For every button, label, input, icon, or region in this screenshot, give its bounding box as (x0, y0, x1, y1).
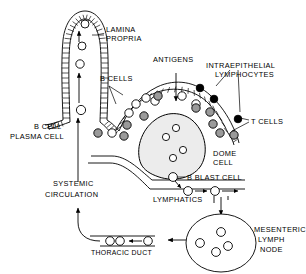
thoracic-duct-cell-1 (106, 237, 115, 246)
lymphocyte-t-1 (154, 92, 162, 100)
lymph-node-cell-2 (224, 242, 233, 251)
label-dome-cell-line1: DOME (213, 149, 237, 158)
lymphocyte-t-5 (120, 132, 128, 140)
label-mesenteric-line3: NODE (260, 245, 283, 254)
thoracic-duct-cell-3 (144, 237, 153, 246)
diagram-canvas: LAMINA PROPRIA B CELLS ANTIGENS INTRAEPI… (0, 0, 306, 274)
label-antigens: ANTIGENS (153, 55, 194, 64)
label-intraepithelial-line2: LYMPHOCYTES (215, 70, 274, 79)
b-blast-cell-circle (169, 173, 178, 182)
label-lamina-propria-line1: LAMINA (106, 25, 136, 34)
lymphocyte-b-5 (178, 92, 186, 100)
lymphocyte-b-2 (132, 100, 140, 108)
lymphocyte-b-4 (125, 109, 133, 117)
label-systemic-line2: CIRCULATION (45, 190, 98, 199)
label-intraepithelial-line1: INTRAEPITHELIAL (206, 61, 275, 70)
lymph-node-cell-4 (196, 239, 205, 248)
dome-cell-inclusion-4 (179, 146, 186, 153)
lymph-transit-cell-2 (211, 187, 220, 196)
label-mesenteric-line1: MESENTERIC (254, 225, 306, 234)
lymphocyte-b-6 (108, 129, 116, 137)
label-b-cells: B CELLS (100, 74, 133, 83)
mesenteric-lymph-node (168, 214, 256, 272)
lymphocyte-t-2 (140, 112, 148, 120)
lymphocyte-t-4 (94, 129, 102, 137)
lymphocyte-t-3 (123, 121, 131, 129)
lymphocyte-t-8 (209, 120, 217, 128)
intraepithelial-lymphocyte-3 (234, 115, 242, 123)
label-dome-cell-line2: CELL (213, 158, 233, 167)
label-thoracic-duct: THORACIC DUCT (91, 249, 152, 256)
lymphocyte-t-9 (216, 129, 224, 137)
label-lymphatics: LYMPHATICS (153, 195, 203, 204)
lymphocyte-b-1 (142, 94, 150, 102)
b-blast-entry-arrow (175, 181, 181, 188)
thoracic-duct (78, 208, 155, 246)
lymphocyte-t-7 (206, 108, 214, 116)
label-mesenteric-line2: LYMPH (258, 235, 285, 244)
villus-inner-contour (69, 19, 101, 122)
thoracic-duct-cell-2 (116, 237, 125, 246)
label-systemic-line1: SYSTEMIC (53, 179, 94, 188)
dome-cell-inclusion-1 (172, 124, 179, 131)
dome-cell-inclusion-2 (162, 133, 169, 140)
lymphocyte-t-10 (230, 131, 238, 139)
label-b-blast-cell: B BLAST CELL (187, 173, 242, 182)
villus-b-cell-1 (81, 20, 89, 28)
villus-b-cell-2 (78, 42, 86, 50)
dome-cell-body (139, 114, 206, 180)
villus-b-cell-4 (76, 105, 85, 114)
intraepithelial-lymphocyte-2 (210, 95, 218, 103)
intraepithelial-lymphocyte-1 (196, 84, 204, 92)
lymph-node-cell-3 (212, 248, 221, 257)
villus-b-cell-3 (76, 60, 84, 68)
lymphocyte-t-6 (192, 104, 200, 112)
b-cells-leader (109, 86, 123, 104)
immunology-diagram: LAMINA PROPRIA B CELLS ANTIGENS INTRAEPI… (0, 0, 306, 274)
dome-cell-inclusion-3 (169, 154, 176, 161)
label-lamina-propria-line2: PROPRIA (106, 34, 142, 43)
lymph-node-cell-1 (217, 228, 226, 237)
label-plasma-cell-line2: PLASMA CELL (10, 132, 64, 141)
label-t-cells: T CELLS (251, 117, 283, 126)
label-b-cell-line1: B CELL (34, 122, 62, 131)
